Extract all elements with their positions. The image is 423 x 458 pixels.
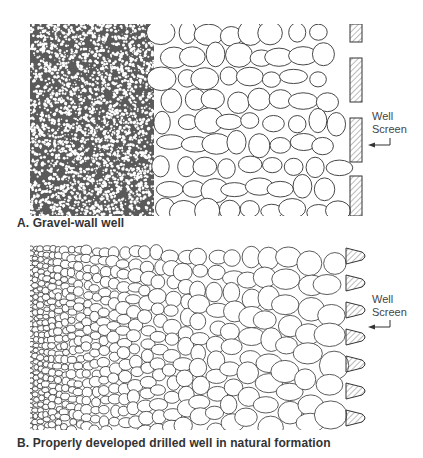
well-screen-label-b-line2: Screen xyxy=(372,306,407,319)
gravel-wall-drawing xyxy=(30,24,366,216)
well-screen-label-b-line1: Well xyxy=(372,293,407,306)
arrow-icon-b xyxy=(366,320,396,334)
arrow-icon-a xyxy=(366,138,396,152)
panel-b-natural-formation-illustration xyxy=(30,244,366,430)
natural-formation-drawing xyxy=(30,244,366,430)
well-screen-label-a: Well Screen xyxy=(372,110,407,136)
panel-a-gravel-wall-illustration xyxy=(30,24,366,216)
well-screen-label-a-line2: Screen xyxy=(372,123,407,136)
well-screen-label-b: Well Screen xyxy=(372,293,407,319)
well-screen-label-a-line1: Well xyxy=(372,110,407,123)
caption-panel-b: B. Properly developed drilled well in na… xyxy=(17,436,331,450)
caption-panel-a: A. Gravel-wall well xyxy=(17,216,124,230)
